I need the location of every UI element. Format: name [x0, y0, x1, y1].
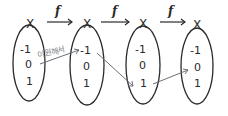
- set-name-1: X: [26, 17, 34, 31]
- set-name-2: X: [83, 17, 91, 31]
- set1-element: 0: [25, 59, 32, 70]
- set1-element: -1: [20, 44, 31, 55]
- set4-element: 0: [194, 62, 201, 73]
- map-label-1: f: [55, 4, 60, 18]
- set3-element: -1: [135, 44, 146, 55]
- set1-element: 1: [26, 76, 33, 87]
- set-name-4: X: [193, 18, 201, 32]
- set4-element: 1: [194, 78, 201, 89]
- set3-element: 1: [140, 78, 147, 89]
- map-arrow-2: [101, 19, 129, 25]
- map-label-2: f: [112, 4, 117, 18]
- map-arrow-1: [47, 19, 72, 25]
- map-arrow-3: [160, 19, 185, 25]
- set2-element: 0: [83, 61, 90, 72]
- set-name-3: X: [139, 17, 147, 31]
- set2-element: 1: [83, 78, 90, 89]
- set4-element: -1: [190, 45, 201, 56]
- map-label-3: f: [168, 4, 173, 18]
- set3-element: 0: [139, 60, 146, 71]
- set2-element: -1: [80, 45, 91, 56]
